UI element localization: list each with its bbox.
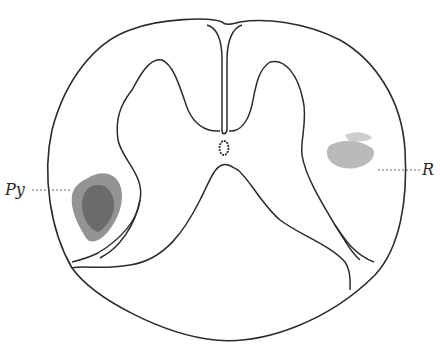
left-grey-matter xyxy=(100,60,220,258)
label-py: Py xyxy=(5,180,25,199)
left-pyramidal-degeneration xyxy=(72,173,122,241)
right-rubrospinal-degeneration xyxy=(327,132,374,168)
spinal-cord-diagram xyxy=(0,0,440,347)
median-fissure xyxy=(207,25,242,134)
label-r: R xyxy=(422,160,434,179)
right-lateral-boundary xyxy=(335,225,374,262)
central-canal xyxy=(220,141,229,155)
